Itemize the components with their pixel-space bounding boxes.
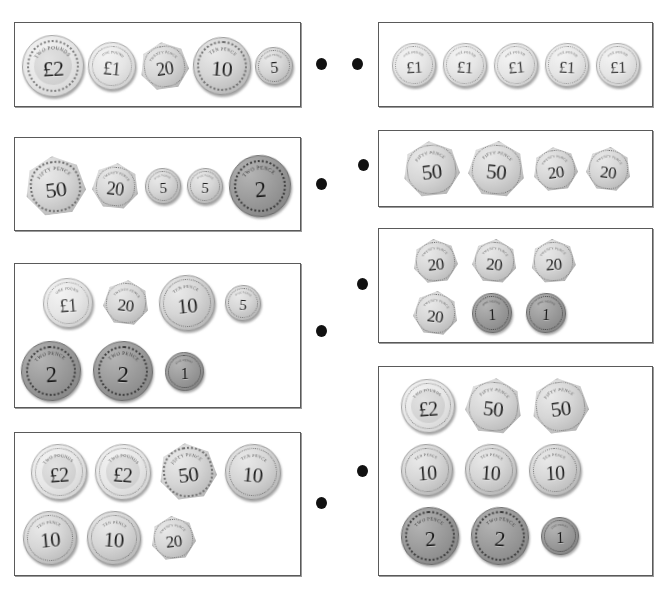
coin-50[interactable]: FIFTY PENCE50 bbox=[156, 440, 221, 505]
coin-value-label: 10 bbox=[39, 529, 61, 552]
coin-10[interactable]: TEN PENCE10 bbox=[191, 35, 253, 97]
coin-value-label: £2 bbox=[42, 57, 64, 80]
coin-50[interactable]: FIFTY PENCE50 bbox=[400, 138, 463, 201]
coin-10[interactable]: TEN PENCE10 bbox=[21, 509, 80, 568]
coin-value-label: 50 bbox=[485, 161, 507, 184]
left-dot-4[interactable] bbox=[316, 497, 327, 509]
left-box-2[interactable]: FIFTY PENCE50TWENTY PENCE20FIVE PENCE5FI… bbox=[14, 137, 301, 231]
left-box-3[interactable]: ONE POUND£1TWENTY PENCE20TEN PENCE10FIVE… bbox=[14, 263, 301, 408]
coin-2[interactable]: TWO PENCE2 bbox=[399, 505, 461, 567]
right-box-3-row-1: TWENTY PENCE20TWENTY PENCE20TWENTY PENCE… bbox=[379, 235, 652, 287]
coin-5[interactable]: FIVE PENCE5 bbox=[224, 284, 262, 322]
coin-value-label: 2 bbox=[45, 362, 58, 386]
coin-value-label: £1 bbox=[609, 58, 626, 76]
right-dot-4[interactable] bbox=[357, 465, 368, 477]
coin-pound1[interactable]: ONE POUND£1 bbox=[390, 42, 436, 88]
coin-2[interactable]: TWO PENCE2 bbox=[19, 339, 83, 403]
right-box-1[interactable]: ONE POUND£1ONE POUND£1ONE POUND£1ONE POU… bbox=[378, 22, 653, 107]
coin-10[interactable]: TEN PENCE10 bbox=[223, 442, 284, 503]
coin-value-label: 50 bbox=[421, 160, 443, 183]
coin-20[interactable]: TWENTY PENCE20 bbox=[530, 144, 580, 194]
coin-20[interactable]: TWENTY PENCE20 bbox=[584, 144, 633, 193]
coin-20[interactable]: TWENTY PENCE20 bbox=[149, 513, 198, 562]
coin-value-label: £1 bbox=[405, 58, 422, 76]
coin-value-label: 2 bbox=[494, 528, 506, 551]
coin-5[interactable]: FIVE PENCE5 bbox=[254, 46, 295, 87]
coin-value-label: 10 bbox=[103, 529, 124, 551]
coin-value-label: 20 bbox=[599, 162, 617, 181]
coin-2[interactable]: TWO PENCE2 bbox=[469, 505, 531, 567]
left-dot-2[interactable] bbox=[316, 178, 327, 190]
coin-value-label: £1 bbox=[558, 58, 575, 76]
left-box-2-row-1: FIFTY PENCE50TWENTY PENCE20FIVE PENCE5FI… bbox=[15, 150, 300, 222]
coin-value-label: £1 bbox=[103, 59, 122, 78]
right-box-4-row-2: TEN PENCE10TEN PENCE10TEN PENCE10 bbox=[379, 441, 652, 499]
coin-pound1[interactable]: ONE POUND£1 bbox=[595, 42, 641, 88]
coin-1[interactable]: ONE PENNY1 bbox=[471, 292, 513, 334]
coin-pound1[interactable]: ONE POUND£1 bbox=[86, 40, 138, 92]
coin-2[interactable]: TWO PENCE2 bbox=[226, 152, 293, 219]
coin-2[interactable]: TWO PENCE2 bbox=[91, 339, 154, 402]
coin-1[interactable]: ONE PENNY1 bbox=[164, 351, 204, 391]
coin-value-label: 50 bbox=[177, 463, 199, 486]
coin-value-label: £2 bbox=[113, 464, 133, 485]
coin-20[interactable]: TWENTY PENCE20 bbox=[411, 236, 460, 285]
coin-20[interactable]: TWENTY PENCE20 bbox=[411, 288, 460, 337]
coin-value-label: 20 bbox=[426, 306, 444, 325]
coin-10[interactable]: TEN PENCE10 bbox=[463, 442, 519, 498]
right-dot-3[interactable] bbox=[357, 278, 368, 290]
coin-50[interactable]: FIFTY PENCE50 bbox=[466, 138, 528, 200]
right-box-4[interactable]: TWO POUNDS£2FIFTY PENCE50FIFTY PENCE50TE… bbox=[378, 366, 653, 576]
coin-value-label: 10 bbox=[176, 295, 198, 318]
coin-50[interactable]: FIFTY PENCE50 bbox=[529, 374, 593, 438]
coin-pound2[interactable]: TWO POUNDS£2 bbox=[20, 33, 85, 98]
coin-value-label: 5 bbox=[270, 60, 279, 76]
coin-value-label: £1 bbox=[507, 58, 524, 76]
coin-value-label: £2 bbox=[49, 464, 69, 485]
coin-20[interactable]: TWENTY PENCE20 bbox=[89, 160, 141, 212]
left-box-3-row-1: ONE POUND£1TWENTY PENCE20TEN PENCE10FIVE… bbox=[15, 272, 300, 334]
coin-pound1[interactable]: ONE POUND£1 bbox=[41, 276, 94, 329]
coin-5[interactable]: FIVE PENCE5 bbox=[144, 167, 182, 205]
coin-pound2[interactable]: TWO POUNDS£2 bbox=[93, 442, 153, 502]
right-box-2[interactable]: FIFTY PENCE50FIFTY PENCE50TWENTY PENCE20… bbox=[378, 130, 653, 207]
coin-pound2[interactable]: TWO POUNDS£2 bbox=[29, 442, 89, 502]
coin-value-label: 10 bbox=[481, 462, 501, 483]
coin-value-label: 20 bbox=[427, 254, 445, 273]
right-dot-1[interactable] bbox=[352, 58, 363, 70]
left-box-4[interactable]: TWO POUNDS£2TWO POUNDS£2FIFTY PENCE50TEN… bbox=[14, 432, 301, 576]
left-dot-1[interactable] bbox=[316, 58, 327, 70]
coin-value-label: 1 bbox=[556, 530, 564, 546]
right-box-2-row-1: FIFTY PENCE50FIFTY PENCE50TWENTY PENCE20… bbox=[379, 137, 652, 201]
coin-pound1[interactable]: ONE POUND£1 bbox=[441, 42, 488, 89]
coin-20[interactable]: TWENTY PENCE20 bbox=[137, 38, 192, 93]
coin-20[interactable]: TWENTY PENCE20 bbox=[101, 278, 152, 329]
coin-pound1[interactable]: ONE POUND£1 bbox=[543, 42, 589, 88]
coin-10[interactable]: TEN PENCE10 bbox=[85, 509, 143, 567]
left-box-3-row-2: TWO PENCE2TWO PENCE2ONE PENNY1 bbox=[15, 338, 300, 404]
left-box-1[interactable]: TWO POUNDS£2ONE POUND£1TWENTY PENCE20TEN… bbox=[14, 22, 301, 107]
coin-value-label: £2 bbox=[418, 398, 438, 419]
coin-value-label: 20 bbox=[545, 254, 562, 272]
left-dot-3[interactable] bbox=[316, 325, 327, 337]
coin-50[interactable]: FIFTY PENCE50 bbox=[462, 375, 525, 438]
coin-20[interactable]: TWENTY PENCE20 bbox=[529, 237, 577, 285]
coin-value-label: 20 bbox=[486, 254, 503, 272]
right-dot-2[interactable] bbox=[358, 159, 369, 171]
coin-pound2[interactable]: TWO POUNDS£2 bbox=[399, 377, 457, 435]
coin-20[interactable]: TWENTY PENCE20 bbox=[470, 237, 519, 286]
coin-1[interactable]: ONE PENNY1 bbox=[525, 292, 567, 334]
left-box-4-row-1: TWO POUNDS£2TWO POUNDS£2FIFTY PENCE50TEN… bbox=[15, 441, 300, 503]
coin-value-label: 50 bbox=[44, 177, 68, 201]
coin-10[interactable]: TEN PENCE10 bbox=[157, 273, 218, 334]
coin-10[interactable]: TEN PENCE10 bbox=[528, 443, 583, 498]
right-box-3[interactable]: TWENTY PENCE20TWENTY PENCE20TWENTY PENCE… bbox=[378, 228, 653, 343]
coin-1[interactable]: ONE PENNY1 bbox=[540, 516, 579, 555]
coin-value-label: 20 bbox=[155, 58, 174, 78]
coin-10[interactable]: TEN PENCE10 bbox=[399, 442, 455, 498]
coin-5[interactable]: FIVE PENCE5 bbox=[186, 167, 224, 205]
coin-50[interactable]: FIFTY PENCE50 bbox=[21, 152, 89, 220]
left-box-4-row-2: TEN PENCE10TEN PENCE10TWENTY PENCE20 bbox=[15, 507, 300, 569]
coin-pound1[interactable]: ONE POUND£1 bbox=[492, 41, 540, 89]
coin-value-label: 10 bbox=[545, 462, 565, 483]
